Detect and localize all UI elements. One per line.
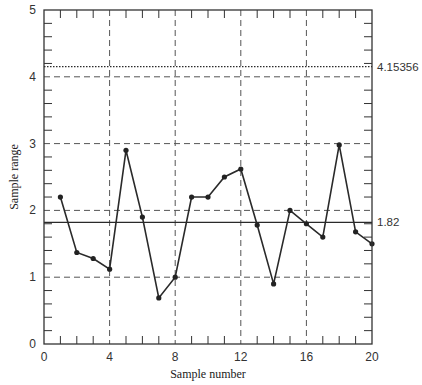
data-point — [320, 235, 325, 240]
x-tick-label: 0 — [41, 350, 48, 364]
center-line-label: 1.82 — [377, 216, 399, 228]
y-tick-label: 1 — [29, 270, 36, 284]
data-point — [353, 229, 358, 234]
axis-ticks — [44, 10, 372, 344]
data-point — [140, 214, 145, 219]
data-point — [58, 194, 63, 199]
y-tick-labels: 012345 — [29, 3, 36, 351]
y-tick-label: 4 — [29, 70, 36, 84]
data-point — [255, 222, 260, 227]
x-axis-title: Sample number — [170, 367, 246, 381]
data-line — [60, 145, 372, 298]
data-point — [156, 295, 161, 300]
x-tick-label: 8 — [172, 350, 179, 364]
y-tick-label: 2 — [29, 203, 36, 217]
data-point — [123, 148, 128, 153]
data-point — [91, 256, 96, 261]
x-tick-label: 4 — [106, 350, 113, 364]
y-tick-label: 3 — [29, 137, 36, 151]
data-point — [287, 208, 292, 213]
data-point — [304, 221, 309, 226]
x-tick-label: 16 — [300, 350, 314, 364]
data-point — [189, 194, 194, 199]
plot-frame — [44, 10, 372, 344]
y-tick-label: 0 — [29, 337, 36, 351]
data-point — [271, 281, 276, 286]
x-tick-labels: 048121620 — [41, 350, 379, 364]
x-tick-label: 20 — [365, 350, 379, 364]
data-point — [107, 267, 112, 272]
data-point — [337, 142, 342, 147]
data-point — [205, 194, 210, 199]
x-tick-label: 12 — [234, 350, 248, 364]
y-axis-title: Sample range — [7, 144, 21, 210]
data-point — [74, 250, 79, 255]
reference-lines: 1.824.15356 — [44, 61, 419, 229]
data-point — [238, 166, 243, 171]
data-point — [222, 174, 227, 179]
control-chart: 1.824.15356 048121620 012345 Sample numb… — [0, 0, 422, 385]
upper-control-limit-label: 4.15356 — [377, 61, 419, 73]
data-point — [173, 275, 178, 280]
y-tick-label: 5 — [29, 3, 36, 17]
grid-lines — [44, 10, 372, 344]
